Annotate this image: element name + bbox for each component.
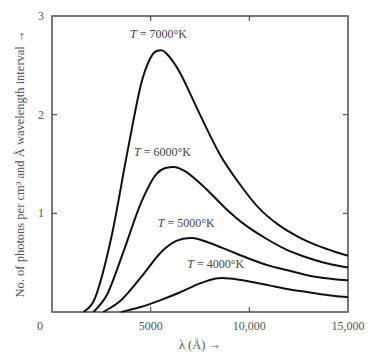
- y-tick-label: 3: [38, 9, 44, 23]
- curve-label: T = 7000°K: [130, 27, 187, 41]
- curve: [84, 50, 348, 312]
- x-tick-label: 5000: [139, 319, 163, 333]
- y-axis-title: No. of photons per cm³ and Å wavelength …: [13, 31, 27, 298]
- curves: [84, 50, 348, 312]
- y-tick-label: 2: [38, 108, 44, 122]
- x-tick-label: 0: [37, 319, 43, 333]
- curve-label: T = 5000°K: [158, 216, 215, 230]
- y-tick-label: 1: [38, 206, 44, 220]
- x-tick-label: 10,000: [233, 319, 266, 333]
- curve: [103, 238, 348, 312]
- blackbody-photon-chart: 0500010,00015,000123 T = 7000°KT = 6000°…: [0, 0, 375, 360]
- curve-label: T = 6000°K: [134, 145, 191, 159]
- x-tick-label: 15,000: [332, 319, 365, 333]
- axis-ticks: 0500010,00015,000123: [37, 9, 365, 333]
- x-axis-title: λ (Å) →: [179, 338, 221, 352]
- curve: [121, 278, 348, 312]
- curve: [93, 167, 348, 312]
- curve-label: T = 4000°K: [187, 257, 244, 271]
